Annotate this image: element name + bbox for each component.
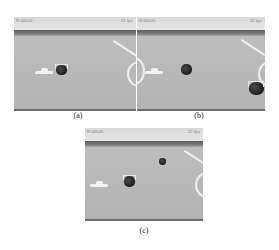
- ball-object: [159, 158, 166, 165]
- timestamp-left: R:00h20: [16, 18, 33, 23]
- timestamp-right: 22 fps: [188, 129, 200, 134]
- floor-marking-arrow: [90, 183, 108, 187]
- field-floor: [14, 36, 136, 109]
- timestamp-left: R:00h20: [87, 129, 104, 134]
- ball-object: [181, 64, 192, 75]
- tracking-bounding-box: [55, 64, 68, 69]
- caption-c: (c): [129, 226, 159, 235]
- video-frame-a: R:00h20 21 fps: [14, 17, 136, 111]
- timestamp-right: 21 fps: [250, 18, 262, 23]
- video-frame-c: R:00h20 22 fps: [85, 128, 203, 221]
- video-frame-b: R:00h20 21 fps: [137, 17, 265, 111]
- frame-header-strip: R:00h20 21 fps: [137, 17, 265, 30]
- floor-marking-arrow: [145, 70, 163, 74]
- timestamp-right: 21 fps: [121, 18, 133, 23]
- caption-b: (b): [184, 111, 214, 120]
- caption-a: (a): [63, 111, 93, 120]
- floor-marking-arrow: [35, 70, 53, 74]
- timestamp-left: R:00h20: [139, 18, 156, 23]
- tracking-bounding-box: [123, 175, 136, 180]
- frame-header-strip: R:00h20 22 fps: [85, 128, 203, 141]
- frame-header-strip: R:00h20 21 fps: [14, 17, 136, 30]
- tracking-bounding-box: [248, 81, 264, 87]
